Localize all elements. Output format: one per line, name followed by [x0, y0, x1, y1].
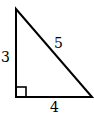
- side-label-hypotenuse: 5: [54, 36, 63, 50]
- right-angle-marker: [16, 87, 26, 97]
- triangle-figure: [0, 0, 94, 114]
- side-label-horizontal: 4: [50, 100, 59, 114]
- right-triangle: [16, 9, 92, 97]
- side-label-vertical: 3: [1, 50, 10, 64]
